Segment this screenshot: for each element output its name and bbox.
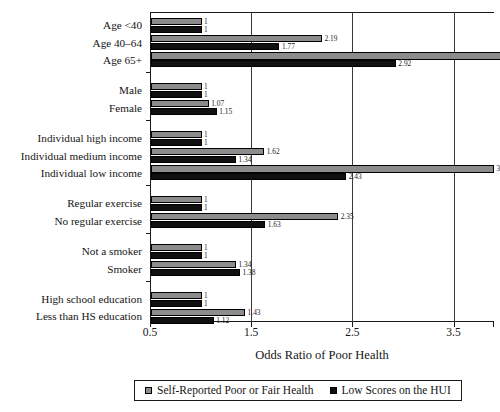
category-label: Regular exercise xyxy=(67,197,142,209)
bar-value-label: 2.92 xyxy=(397,60,411,68)
x-axis-tick xyxy=(493,322,494,327)
x-axis-tick-label: 0.5 xyxy=(143,326,157,338)
bar-value-label: 1.38 xyxy=(241,269,255,277)
chart-legend: Self-Reported Poor or Fair Health Low Sc… xyxy=(134,380,462,401)
bar-value-label: 1.15 xyxy=(218,108,232,116)
bar xyxy=(151,156,236,163)
x-axis-tick-label: 1.5 xyxy=(244,326,258,338)
category-label: Less than HS education xyxy=(36,310,142,322)
group-separator-tick xyxy=(146,120,151,121)
bar xyxy=(151,173,346,180)
plot-area: 0.51.52.53.5112.191.775.442.92111.071.15… xyxy=(150,12,494,322)
bar xyxy=(151,292,202,299)
legend-label-series-1: Low Scores on the HUI xyxy=(342,384,451,396)
bar xyxy=(151,43,279,50)
bar-value-label: 2.43 xyxy=(347,173,361,181)
bar xyxy=(151,269,240,276)
bar-value-label: 2.19 xyxy=(323,35,337,43)
group-separator-tick xyxy=(146,185,151,186)
bar xyxy=(151,317,214,324)
category-label: Individual low income xyxy=(41,167,142,179)
x-axis-tick-label: 3.5 xyxy=(446,326,460,338)
category-axis-labels: Age <40Age 40–64Age 65+MaleFemaleIndivid… xyxy=(0,0,148,322)
legend-swatch-icon-series-0 xyxy=(145,387,152,394)
bar xyxy=(151,18,202,25)
bar xyxy=(151,108,217,115)
bar-value-label: 1.77 xyxy=(280,43,294,51)
odds-ratio-bar-chart: Age <40Age 40–64Age 65+MaleFemaleIndivid… xyxy=(0,0,500,412)
bar-value-label: 1.62 xyxy=(265,148,279,156)
legend-item-low-scores-hui: Low Scores on the HUI xyxy=(330,384,451,396)
category-label: No regular exercise xyxy=(54,215,142,227)
bar xyxy=(151,35,322,42)
bar-value-label: 1.12 xyxy=(215,317,229,325)
category-label: Individual high income xyxy=(38,132,142,144)
plot-top-border xyxy=(150,12,494,13)
bar-value-label: 1 xyxy=(203,252,208,260)
category-label: Female xyxy=(109,102,142,114)
bar-value-label: 1 xyxy=(203,91,208,99)
bar xyxy=(151,221,265,228)
bar-value-label: 1 xyxy=(203,139,208,147)
x-axis-title: Odds Ratio of Poor Health xyxy=(150,348,494,363)
bar xyxy=(151,100,209,107)
bar xyxy=(151,52,500,59)
category-label: Age <40 xyxy=(103,19,142,31)
bar-value-label: 1.34 xyxy=(237,156,251,164)
legend-label-series-0: Self-Reported Poor or Fair Health xyxy=(157,384,314,396)
bar xyxy=(151,244,202,251)
bar xyxy=(151,91,202,98)
group-separator-tick xyxy=(146,281,151,282)
x-axis-tick-label: 2.5 xyxy=(345,326,359,338)
group-separator-tick xyxy=(146,72,151,73)
category-label: Not a smoker xyxy=(82,245,142,257)
bar-value-label: 1.43 xyxy=(246,309,260,317)
bar-value-label: 2.35 xyxy=(339,213,353,221)
legend-item-self-reported: Self-Reported Poor or Fair Health xyxy=(145,384,314,396)
legend-swatch-icon-series-1 xyxy=(330,387,337,394)
bar xyxy=(151,131,202,138)
bar xyxy=(151,139,202,146)
category-label: Smoker xyxy=(107,263,142,275)
category-label: Individual medium income xyxy=(21,150,142,162)
category-label: Age 40–64 xyxy=(93,37,142,49)
bar xyxy=(151,26,202,33)
bar xyxy=(151,204,202,211)
category-label: Male xyxy=(119,84,142,96)
bar xyxy=(151,60,396,67)
bar-value-label: 1 xyxy=(203,204,208,212)
bar-value-label: 1 xyxy=(203,26,208,34)
bar xyxy=(151,252,202,259)
bar xyxy=(151,83,202,90)
bar-value-label: 3.89 xyxy=(495,165,500,173)
bar xyxy=(151,300,202,307)
bar xyxy=(151,165,494,172)
bar xyxy=(151,261,236,268)
bar-value-label: 1 xyxy=(203,300,208,308)
bar-value-label: 1.63 xyxy=(266,221,280,229)
bar xyxy=(151,213,338,220)
bar xyxy=(151,196,202,203)
bar xyxy=(151,309,245,316)
category-label: Age 65+ xyxy=(103,54,142,66)
category-label: High school education xyxy=(41,293,142,305)
group-separator-tick xyxy=(146,233,151,234)
